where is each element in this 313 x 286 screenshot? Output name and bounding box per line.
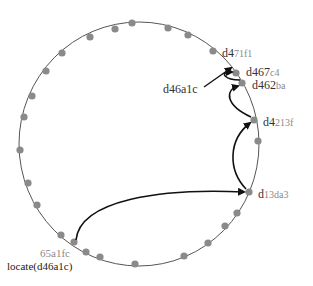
ring-node <box>232 69 239 76</box>
ring-node <box>86 33 93 40</box>
label-d4213f: d4213f <box>263 113 293 129</box>
ring-node <box>254 137 261 144</box>
label-suffix: 71f1 <box>234 48 252 59</box>
ring-node <box>184 31 191 38</box>
ring-node <box>221 222 228 229</box>
ring-node <box>204 239 211 246</box>
hop-arrow-65a1fc-to-d13da3 <box>76 191 244 240</box>
label-d471f1: d471f1 <box>222 44 252 60</box>
ring-node <box>111 25 118 32</box>
hop-arrow-d13da3-to-d4213f <box>233 123 250 189</box>
hop-arrow-d4213f-to-d462ba <box>229 86 251 117</box>
label-origin-node: 65a1fc <box>40 248 70 259</box>
ring-node <box>128 19 135 26</box>
ring-node <box>233 209 240 216</box>
label-prefix: d462 <box>252 78 276 92</box>
label-prefix: d4 <box>263 115 275 129</box>
ring-node <box>24 179 31 186</box>
label-suffix: ba <box>276 80 285 91</box>
label-prefix: d4 <box>222 46 234 60</box>
ring-node <box>28 92 35 99</box>
chord-ring-diagram <box>0 0 313 286</box>
ring-node <box>82 248 89 255</box>
label-suffix: 13da3 <box>264 189 288 200</box>
ring-node <box>57 231 64 238</box>
ring-node <box>164 24 171 31</box>
ring-node <box>180 252 187 259</box>
label-d462ba: d462ba <box>252 76 285 92</box>
ring-node <box>58 49 65 56</box>
ring-node <box>245 188 252 195</box>
label-suffix: 213f <box>275 117 293 128</box>
label-d13da3: d13da3 <box>258 185 288 201</box>
ring-node <box>131 260 138 267</box>
ring-node <box>20 113 27 120</box>
ring-node <box>33 201 40 208</box>
ring-node <box>16 146 23 153</box>
ring-node <box>42 67 49 74</box>
ring-node <box>250 116 257 123</box>
label-target-key: d46a1c <box>163 83 198 95</box>
ring-node <box>209 47 216 54</box>
label-locate-query: locate(d46a1c) <box>7 261 72 272</box>
ring-node <box>96 253 103 260</box>
